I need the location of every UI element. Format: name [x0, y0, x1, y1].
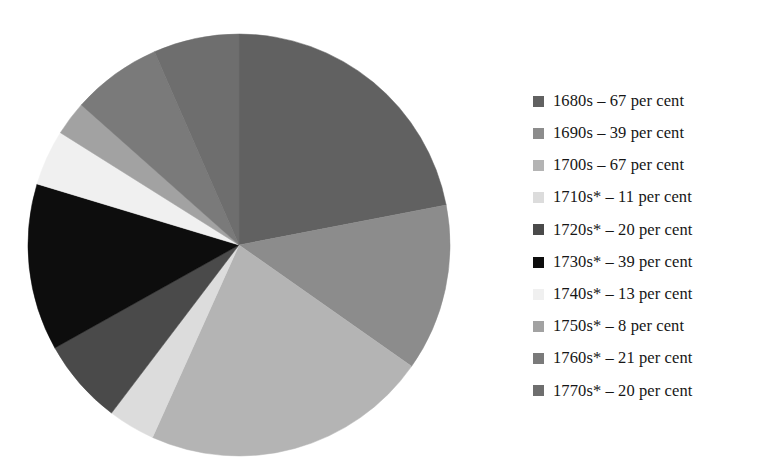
legend-item: 1680s – 67 per cent: [533, 85, 763, 117]
chart-legend: 1680s – 67 per cent1690s – 39 per cent17…: [533, 85, 763, 407]
legend-swatch-icon: [533, 385, 544, 396]
pie-chart-svg: [27, 31, 451, 459]
legend-swatch-icon: [533, 224, 544, 235]
legend-swatch-icon: [533, 192, 544, 203]
legend-swatch-icon: [533, 289, 544, 300]
legend-item: 1690s – 39 per cent: [533, 117, 763, 149]
legend-item-label: 1730s* – 39 per cent: [553, 254, 692, 271]
legend-item-label: 1750s* – 8 per cent: [553, 318, 684, 335]
pie-chart-plot-area: [27, 31, 451, 459]
legend-item-label: 1690s – 39 per cent: [553, 125, 684, 142]
legend-item: 1720s* – 20 per cent: [533, 214, 763, 246]
legend-item: 1760s* – 21 per cent: [533, 343, 763, 375]
legend-swatch-icon: [533, 160, 544, 171]
legend-item: 1710s* – 11 per cent: [533, 182, 763, 214]
legend-item-label: 1760s* – 21 per cent: [553, 350, 692, 367]
legend-item: 1740s* – 13 per cent: [533, 278, 763, 310]
legend-swatch-icon: [533, 96, 544, 107]
pie-slice-group: [28, 34, 450, 456]
legend-item-label: 1740s* – 13 per cent: [553, 286, 692, 303]
pie-chart-figure: 1680s – 67 per cent1690s – 39 per cent17…: [0, 0, 770, 472]
legend-item-label: 1720s* – 20 per cent: [553, 222, 692, 239]
legend-swatch-icon: [533, 257, 544, 268]
legend-swatch-icon: [533, 321, 544, 332]
legend-item-label: 1770s* – 20 per cent: [553, 383, 692, 400]
legend-item: 1770s* – 20 per cent: [533, 375, 763, 407]
legend-item-label: 1680s – 67 per cent: [553, 93, 684, 110]
legend-item: 1700s – 67 per cent: [533, 149, 763, 181]
legend-item-label: 1700s – 67 per cent: [553, 157, 684, 174]
legend-item-label: 1710s* – 11 per cent: [553, 189, 692, 206]
legend-swatch-icon: [533, 128, 544, 139]
legend-item: 1730s* – 39 per cent: [533, 246, 763, 278]
legend-item: 1750s* – 8 per cent: [533, 310, 763, 342]
legend-swatch-icon: [533, 353, 544, 364]
